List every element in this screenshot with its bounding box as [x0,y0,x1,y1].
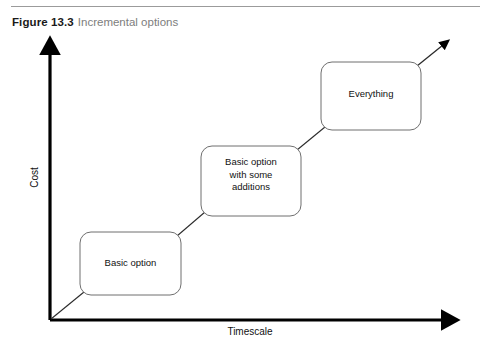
step-box-1 [80,232,181,295]
x-axis-label: Timescale [185,326,315,337]
figure-container: Figure 13.3Incremental options Basic opt… [0,0,487,362]
connector-origin-to-step-1 [51,292,84,319]
step-box-3 [321,62,421,130]
growth-trend-arrow [417,45,443,66]
step-box-2 [201,146,301,216]
connector-step-2-to-step-3 [297,127,325,150]
connector-step-1-to-step-2 [177,212,205,236]
incremental-options-diagram [0,0,487,362]
y-axis-label: Cost [29,148,40,208]
